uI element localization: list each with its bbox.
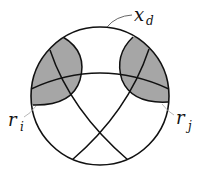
label-r-j: r j [176,107,192,133]
leader-x-d [107,15,132,27]
label-r-i-sub: i [20,120,24,134]
label-r-i-base: r [8,109,18,130]
label-x-d: x d [134,4,154,28]
label-r-i: r i [8,109,24,134]
diagram-canvas: x d r i r j [0,0,204,172]
label-x-d-sub: d [146,14,154,28]
label-x-d-base: x [134,4,144,25]
label-r-j-base: r [176,107,186,128]
label-r-j-sub: j [185,119,192,133]
